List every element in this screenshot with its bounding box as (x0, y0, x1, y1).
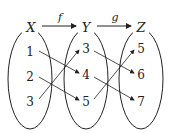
y-element-5: 5 (82, 95, 90, 109)
set-y-label: Y (82, 20, 92, 35)
set-z-label: Z (135, 20, 146, 35)
function-f-label: f (57, 11, 64, 24)
function-g-label: g (111, 11, 118, 24)
map-f-1-to-4 (39, 51, 79, 73)
x-element-2: 2 (26, 70, 34, 84)
map-f-2-to-5 (39, 77, 79, 100)
map-f-3-to-3 (39, 50, 79, 99)
map-g-4-to-7 (94, 77, 134, 100)
z-element-6: 6 (137, 68, 145, 82)
map-g-3-to-6 (94, 51, 134, 73)
z-element-7: 7 (137, 95, 145, 109)
z-element-5: 5 (137, 42, 145, 56)
mapping-diagram: X Y Z f g 1 2 3 3 4 5 5 6 7 (0, 0, 169, 133)
set-x-label: X (25, 20, 36, 35)
y-element-3: 3 (82, 42, 90, 56)
y-element-4: 4 (82, 68, 90, 82)
map-g-5-to-5 (94, 50, 134, 99)
x-element-3: 3 (26, 95, 34, 109)
x-element-1: 1 (26, 45, 34, 59)
